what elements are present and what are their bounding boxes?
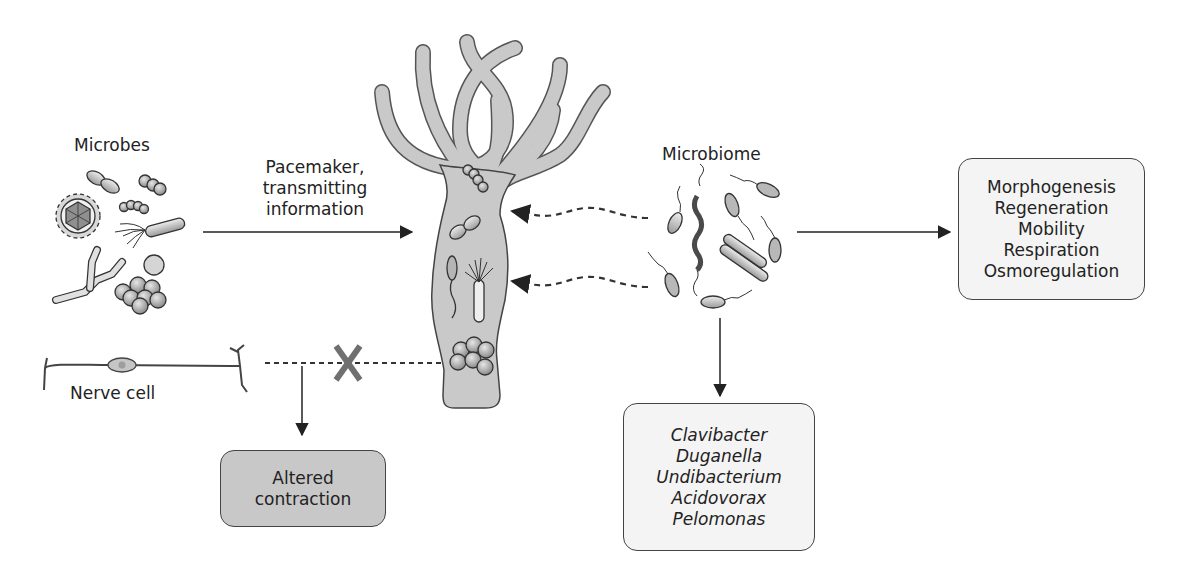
function-item: Morphogenesis — [987, 177, 1116, 198]
microbiome-to-hydra-arrow-2 — [512, 277, 648, 287]
microbiome-to-hydra-arrow-1 — [512, 208, 648, 218]
pacemaker-line-3: information — [245, 199, 385, 220]
altered-contraction-line-2: contraction — [255, 489, 352, 510]
function-item: Regeneration — [995, 198, 1109, 219]
function-item: Mobility — [1018, 219, 1085, 240]
altered-contraction-line-1: Altered — [272, 468, 333, 489]
function-item: Osmoregulation — [984, 261, 1120, 282]
genus-item: Acidovorax — [672, 488, 767, 509]
altered-contraction-box: Altered contraction — [220, 450, 386, 527]
functions-box: Morphogenesis Regeneration Mobility Resp… — [958, 158, 1145, 300]
microbes-illustration — [56, 168, 186, 314]
genus-item: Duganella — [676, 446, 762, 467]
genera-box: Clavibacter Duganella Undibacterium Acid… — [623, 403, 815, 551]
nerve-cell-label: Nerve cell — [70, 383, 155, 404]
microbiome-label: Microbiome — [662, 144, 761, 165]
pacemaker-line-2: transmitting — [245, 178, 385, 199]
microbes-label: Microbes — [74, 135, 150, 156]
genus-item: Undibacterium — [656, 467, 781, 488]
function-item: Respiration — [1004, 240, 1100, 261]
hydra-icon — [382, 42, 603, 180]
microbiome-illustration — [648, 164, 781, 308]
pacemaker-label: Pacemaker, transmitting information — [245, 157, 385, 220]
genus-item: Clavibacter — [671, 425, 767, 446]
virus-icon — [56, 194, 100, 238]
genus-item: Pelomonas — [673, 509, 766, 530]
pacemaker-line-1: Pacemaker, — [245, 157, 385, 178]
